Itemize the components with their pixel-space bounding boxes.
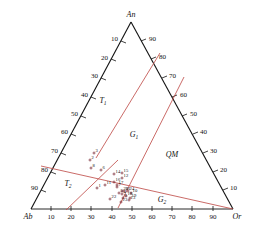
data-point-label: 14	[116, 169, 121, 174]
right-tick-label: 30	[210, 147, 218, 155]
data-point: 22	[109, 194, 117, 201]
data-point-label: 2	[92, 155, 95, 160]
data-point-label: 1	[99, 183, 102, 188]
data-point: 11	[104, 180, 112, 187]
ternary-plot-svg: An Ab Or 10 20 30 40 50 60 70 80 90 90 8…	[0, 0, 259, 237]
data-point: 3	[93, 148, 99, 155]
left-tick-label: 70	[51, 147, 59, 155]
bottom-tick-label: 90	[210, 213, 218, 221]
data-point-label: 15	[124, 168, 129, 173]
data-point: 2	[89, 155, 95, 162]
left-tick-label: 90	[31, 184, 39, 192]
data-point: 6	[100, 165, 106, 172]
bottom-tick-label: 30	[88, 213, 96, 221]
right-tick-label: 40	[200, 128, 208, 136]
data-point-label: 11	[107, 180, 112, 185]
right-edge-ticks	[141, 39, 228, 190]
data-point-label: 24	[130, 186, 135, 191]
right-edge-tick-labels: 90 80 70 60 50 40 30 20 10	[149, 35, 238, 192]
bottom-tick-label: 20	[68, 213, 76, 221]
right-tick-label: 10	[230, 184, 238, 192]
data-point-label: 22	[112, 194, 117, 199]
data-point-label: 8	[93, 163, 96, 168]
region-label-g1: G1	[130, 130, 139, 140]
data-point-label: 23	[123, 197, 128, 202]
bottom-tick-label: 70	[169, 213, 177, 221]
left-edge-tick-labels: 10 20 30 40 50 60 70 80 90	[31, 35, 119, 192]
data-points-layer: 123456789101112131415161718192021222324	[89, 148, 138, 204]
data-point-label: 3	[96, 148, 99, 153]
bottom-tick-label: 60	[149, 213, 157, 221]
region-label-qm: QM	[166, 150, 180, 159]
right-tick-label: 70	[169, 72, 177, 80]
bottom-tick-label: 50	[129, 213, 137, 221]
data-point-label: 17	[119, 180, 124, 185]
region-label-t2: T2	[64, 179, 71, 189]
data-point-label: 12	[124, 173, 129, 178]
vertex-label-or: Or	[233, 212, 243, 221]
bottom-edge-ticks	[51, 206, 213, 211]
region-label-t1: T1	[99, 96, 106, 106]
vertex-label-an: An	[126, 10, 136, 19]
left-tick-label: 40	[81, 91, 89, 99]
data-point-label: 6	[103, 165, 106, 170]
left-tick-label: 30	[91, 72, 99, 80]
data-point: 8	[90, 163, 96, 170]
bottom-tick-label: 80	[189, 213, 197, 221]
left-tick-label: 10	[111, 35, 119, 43]
bottom-edge-tick-labels: 10 20 30 40 50 60 70 80 90	[48, 213, 218, 221]
right-tick-label: 20	[220, 166, 228, 174]
bottom-tick-label: 10	[48, 213, 56, 221]
ternary-diagram-figure: An Ab Or 10 20 30 40 50 60 70 80 90 90 8…	[0, 0, 259, 237]
data-point: 14	[113, 169, 121, 176]
right-tick-label: 90	[149, 35, 157, 43]
right-tick-label: 60	[180, 91, 188, 99]
left-tick-label: 60	[61, 128, 69, 136]
right-tick-label: 50	[190, 110, 198, 118]
right-tick-label: 80	[159, 53, 167, 61]
region-label-g2: G2	[158, 195, 167, 205]
vertex-label-ab: Ab	[23, 212, 33, 221]
bottom-tick-label: 40	[109, 213, 117, 221]
data-point-label: 19	[132, 193, 137, 198]
left-tick-label: 80	[41, 166, 49, 174]
data-point: 23	[120, 197, 128, 204]
left-edge-ticks	[41, 41, 126, 192]
data-point: 1	[96, 183, 102, 190]
left-tick-label: 50	[71, 110, 79, 118]
left-tick-label: 20	[101, 54, 109, 62]
